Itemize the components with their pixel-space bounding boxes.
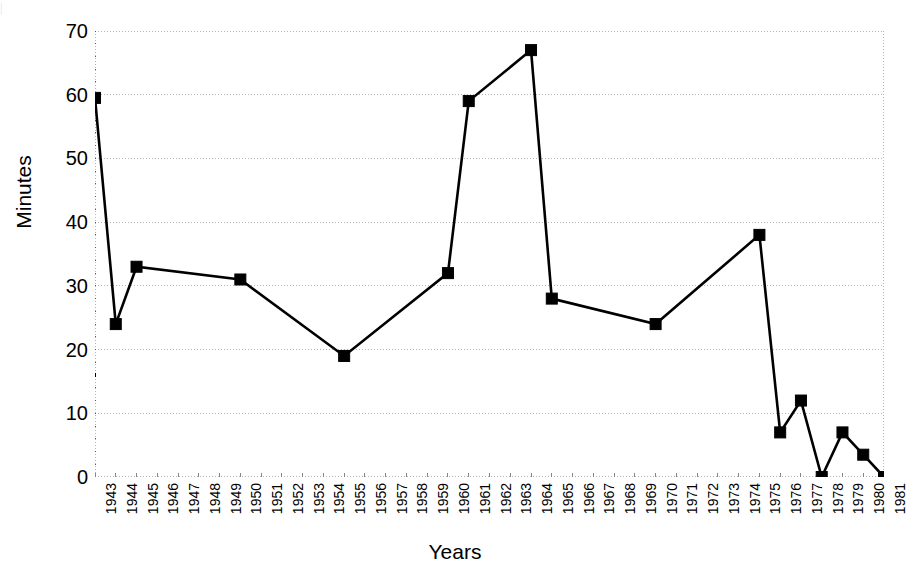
x-axis-tick-label: 1945 (145, 483, 161, 535)
y-axis-tick-label: 30 (44, 276, 88, 296)
y-axis-tick-label: 60 (44, 85, 88, 105)
x-axis-tick-label: 1948 (207, 483, 223, 535)
chart-figure: | Minutes 010203040506070 19431944194519… (0, 0, 910, 584)
x-axis-tick-label: 1978 (830, 483, 846, 535)
x-axis-tick-label: 1976 (788, 483, 804, 535)
y-axis-tick-labels: 010203040506070 (36, 31, 88, 477)
x-axis-tick-label: 1974 (747, 483, 763, 535)
x-axis-ticks (95, 473, 884, 477)
y-axis-tick-label: 70 (44, 21, 88, 41)
x-axis-tick-label: 1975 (767, 483, 783, 535)
plot-area (95, 31, 884, 477)
y-axis-title: Minutes (12, 122, 36, 262)
x-axis-tick-label: 1977 (809, 483, 825, 535)
x-axis-tick-label: 1972 (705, 483, 721, 535)
x-axis-tick-label: 1971 (684, 483, 700, 535)
x-axis-tick-label: 1959 (435, 483, 451, 535)
x-axis-tick-label: 1966 (581, 483, 597, 535)
data-markers-minutes (95, 45, 884, 477)
x-axis-tick-label: 1952 (290, 483, 306, 535)
x-axis-tick-label: 1954 (331, 483, 347, 535)
y-axis-tick-label: 10 (44, 403, 88, 423)
x-axis-tick-label: 1947 (186, 483, 202, 535)
gridlines (95, 31, 884, 477)
x-axis-tick-labels: 1943194419451946194719481949195019511952… (95, 483, 884, 535)
x-axis-tick-label: 1957 (394, 483, 410, 535)
x-axis-tick-label: 1979 (850, 483, 866, 535)
y-axis-line (96, 31, 884, 477)
x-axis-tick-label: 1981 (892, 483, 908, 535)
x-axis-tick-label: 1955 (352, 483, 368, 535)
x-axis-tick-label: 1965 (560, 483, 576, 535)
y-axis-tick-label: 0 (44, 467, 88, 487)
x-axis-tick-label: 1980 (871, 483, 887, 535)
scan-artifact-text: | (0, 0, 910, 16)
y-axis-tick-label: 50 (44, 148, 88, 168)
x-axis-tick-label: 1968 (622, 483, 638, 535)
chart-plot-svg (95, 31, 884, 477)
x-axis-tick-label: 1944 (124, 483, 140, 535)
x-axis-tick-label: 1961 (477, 483, 493, 535)
x-axis-tick-label: 1964 (539, 483, 555, 535)
x-axis-tick-label: 1943 (103, 483, 119, 535)
x-axis-tick-label: 1953 (311, 483, 327, 535)
y-axis-tick-label: 40 (44, 212, 88, 232)
x-axis-title: Years (0, 540, 910, 564)
x-axis-tick-label: 1969 (643, 483, 659, 535)
x-axis-tick-label: 1950 (248, 483, 264, 535)
data-line-minutes (95, 50, 884, 477)
x-axis-tick-label: 1962 (498, 483, 514, 535)
x-axis-tick-label: 1946 (165, 483, 181, 535)
x-axis-tick-label: 1963 (518, 483, 534, 535)
x-axis-tick-label: 1960 (456, 483, 472, 535)
x-axis-tick-label: 1949 (228, 483, 244, 535)
x-axis-tick-label: 1967 (601, 483, 617, 535)
x-axis-tick-label: 1970 (664, 483, 680, 535)
x-axis-tick-label: 1956 (373, 483, 389, 535)
x-axis-tick-label: 1958 (414, 483, 430, 535)
y-axis-tick-label: 20 (44, 340, 88, 360)
x-axis-tick-label: 1951 (269, 483, 285, 535)
x-axis-tick-label: 1973 (726, 483, 742, 535)
